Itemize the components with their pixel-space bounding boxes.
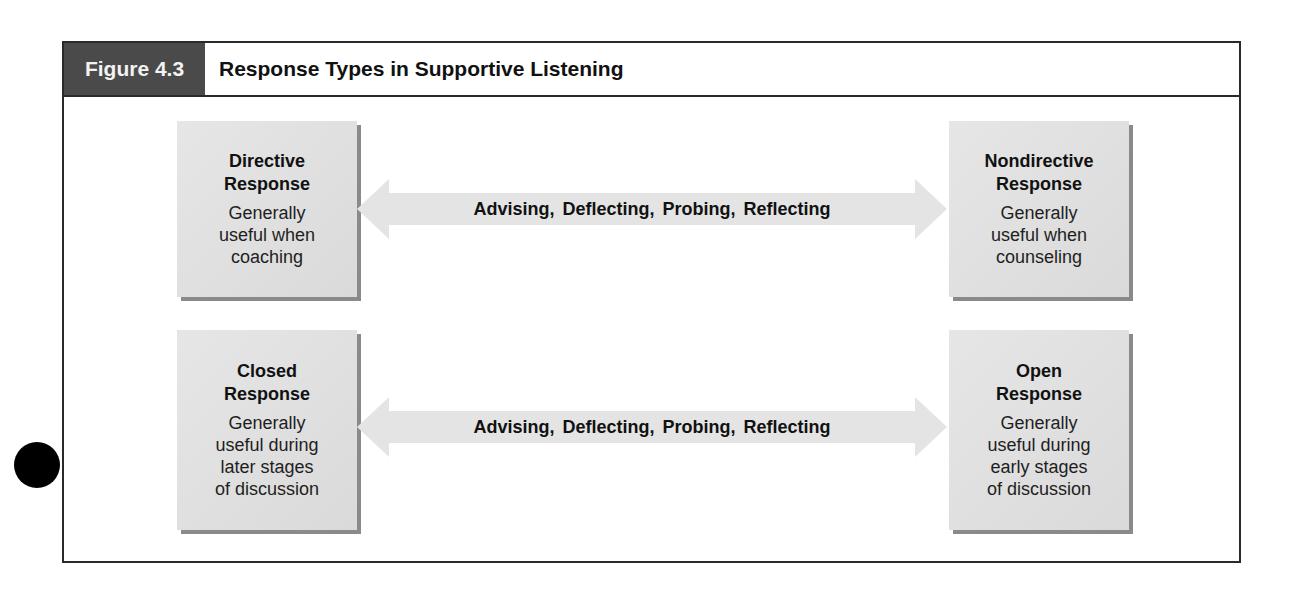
box-desc-line: useful when bbox=[219, 224, 315, 246]
figure-title: Response Types in Supportive Listening bbox=[205, 43, 624, 95]
box-desc-line: Generally bbox=[987, 412, 1091, 434]
arrow-label: Advising, Deflecting, Probing, Reflectin… bbox=[357, 397, 947, 457]
box-desc-line: counseling bbox=[991, 246, 1087, 268]
box-desc-line: of discussion bbox=[215, 478, 319, 500]
double-arrow-top: Advising, Deflecting, Probing, Reflectin… bbox=[357, 179, 947, 239]
box-desc-line: later stages bbox=[215, 456, 319, 478]
box-title-line: Response bbox=[996, 383, 1082, 406]
box-desc-line: coaching bbox=[219, 246, 315, 268]
box-title-line: Response bbox=[224, 383, 310, 406]
box-desc-line: of discussion bbox=[987, 478, 1091, 500]
directive-response-box: Directive Response Generally useful when… bbox=[177, 121, 357, 297]
box-desc-line: Generally bbox=[991, 202, 1087, 224]
box-title-line: Open bbox=[996, 360, 1082, 383]
page-margin-dot bbox=[14, 442, 60, 488]
box-desc-line: Generally bbox=[219, 202, 315, 224]
figure-number-label: Figure 4.3 bbox=[64, 43, 205, 95]
box-title: Open Response bbox=[996, 360, 1082, 406]
double-arrow-bottom: Advising, Deflecting, Probing, Reflectin… bbox=[357, 397, 947, 457]
box-title-line: Response bbox=[984, 173, 1093, 196]
box-description: Generally useful when coaching bbox=[219, 202, 315, 268]
open-response-box: Open Response Generally useful during ea… bbox=[949, 330, 1129, 530]
nondirective-response-box: Nondirective Response Generally useful w… bbox=[949, 121, 1129, 297]
box-title-line: Closed bbox=[224, 360, 310, 383]
box-desc-line: useful during bbox=[987, 434, 1091, 456]
arrow-label: Advising, Deflecting, Probing, Reflectin… bbox=[357, 179, 947, 239]
box-desc-line: early stages bbox=[987, 456, 1091, 478]
closed-response-box: Closed Response Generally useful during … bbox=[177, 330, 357, 530]
box-title-line: Nondirective bbox=[984, 150, 1093, 173]
box-description: Generally useful during later stages of … bbox=[215, 412, 319, 500]
box-title-line: Response bbox=[224, 173, 310, 196]
box-title: Closed Response bbox=[224, 360, 310, 406]
box-description: Generally useful during early stages of … bbox=[987, 412, 1091, 500]
figure-header: Figure 4.3 Response Types in Supportive … bbox=[64, 43, 1239, 97]
box-desc-line: useful when bbox=[991, 224, 1087, 246]
box-desc-line: useful during bbox=[215, 434, 319, 456]
box-desc-line: Generally bbox=[215, 412, 319, 434]
box-title-line: Directive bbox=[224, 150, 310, 173]
box-title: Nondirective Response bbox=[984, 150, 1093, 196]
box-description: Generally useful when counseling bbox=[991, 202, 1087, 268]
box-title: Directive Response bbox=[224, 150, 310, 196]
